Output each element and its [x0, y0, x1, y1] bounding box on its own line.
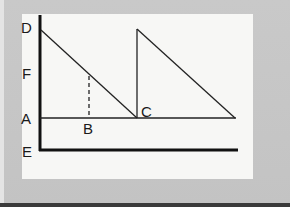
label-e: E: [22, 143, 32, 160]
label-a: A: [21, 110, 31, 127]
label-d: D: [21, 19, 32, 36]
label-b: B: [83, 120, 93, 137]
diagram: D F A E B C: [0, 0, 290, 207]
label-c: C: [141, 103, 152, 120]
label-f: F: [22, 65, 31, 82]
